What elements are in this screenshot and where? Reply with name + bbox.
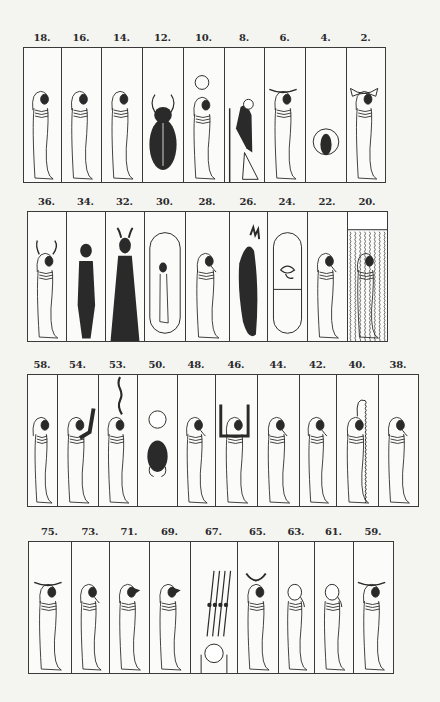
- scarab-with-disk-icon: [138, 375, 177, 506]
- mummy-serpent-above-icon: [99, 375, 137, 506]
- panel-number-label: 18.: [34, 32, 51, 43]
- panel-number-label: 30.: [156, 196, 173, 207]
- figure-panel: [98, 374, 137, 507]
- figure-panel: [190, 541, 237, 674]
- panel-number-label: 40.: [349, 359, 366, 370]
- figure-panel: [307, 211, 347, 342]
- panel-number-label: 10.: [195, 32, 212, 43]
- panel-number-label: 8.: [239, 32, 249, 43]
- panel-number-label: 54.: [69, 359, 86, 370]
- figure-panel: [57, 374, 98, 507]
- panel-number-label: 69.: [161, 526, 178, 537]
- disk-with-plumes-icon: [191, 542, 237, 673]
- panel-number-label: 14.: [113, 32, 130, 43]
- figure-panel: [101, 47, 142, 183]
- figure-panel: [27, 374, 57, 507]
- panel-number-label: 59.: [365, 526, 382, 537]
- illustration-plate: 18.16.14.12.10.8.6.4.2.36.34.32.30.28.26…: [0, 0, 440, 702]
- eye-in-cartouche-icon: [268, 212, 307, 341]
- figure-panel: [185, 211, 229, 342]
- figure-panel: [237, 541, 278, 674]
- panel-number-label: 20.: [359, 196, 376, 207]
- standing-dark-robed-horned-icon: [106, 212, 144, 341]
- mummy-beard-icon: [379, 375, 418, 506]
- figure-panel: [105, 211, 144, 342]
- kneeling-dark-figure-icon: [225, 48, 264, 182]
- panel-number-label: 36.: [38, 196, 55, 207]
- mummy-crescent-icon: [238, 542, 278, 673]
- mummy-jackal-icon: [150, 542, 190, 673]
- mummy-serpent-wavy-icon: [337, 375, 378, 506]
- mummy-human-icon: [62, 48, 101, 182]
- mummy-human-icon: [24, 48, 61, 182]
- figure-panel: [347, 211, 388, 342]
- panel-number-label: 67.: [205, 526, 222, 537]
- mummy-winged-icon: [347, 48, 385, 182]
- panel-number-label: 50.: [149, 359, 166, 370]
- panel-number-label: 12.: [154, 32, 171, 43]
- figure-panel: [183, 47, 224, 183]
- figure-panel: [378, 374, 419, 507]
- figure-panel: [109, 541, 149, 674]
- figure-panel: [257, 374, 299, 507]
- mummy-beard-icon: [308, 212, 347, 341]
- panel-number-label: 42.: [309, 359, 326, 370]
- figure-panel: [23, 47, 61, 183]
- figure-panel: [177, 374, 215, 507]
- panel-number-label: 32.: [116, 196, 133, 207]
- mummy-ram-horns-icon: [265, 48, 305, 182]
- mummy-long-horns-icon: [28, 212, 66, 341]
- panel-number-label: 73.: [82, 526, 99, 537]
- panel-number-label: 4.: [320, 32, 330, 43]
- mummy-human-icon: [102, 48, 142, 182]
- dark-animal-upright-icon: [230, 212, 267, 341]
- figure-panel: [353, 541, 394, 674]
- figure-panel: [215, 374, 257, 507]
- small-mummy-in-cartouche-icon: [145, 212, 185, 341]
- figure-panel: [142, 47, 183, 183]
- figure-panel: [61, 47, 101, 183]
- panel-number-label: 71.: [121, 526, 138, 537]
- figure-panel: [229, 211, 267, 342]
- mummy-raised-arm-icon: [58, 375, 98, 506]
- mummy-sun-disk-icon: [184, 48, 224, 182]
- panel-number-label: 38.: [390, 359, 407, 370]
- figure-panel: [346, 47, 386, 183]
- panel-number-label: 26.: [240, 196, 257, 207]
- panel-number-label: 6.: [279, 32, 289, 43]
- figure-panel: [224, 47, 264, 183]
- figure-panel: [71, 541, 109, 674]
- mummy-ram-horns-icon: [354, 542, 393, 673]
- panel-number-label: 16.: [73, 32, 90, 43]
- mummy-beard-icon: [258, 375, 299, 506]
- panel-number-label: 53.: [109, 359, 126, 370]
- figure-panel: [264, 47, 305, 183]
- mummy-jackal-icon: [110, 542, 149, 673]
- panel-number-label: 65.: [249, 526, 266, 537]
- mummy-beard-icon: [72, 542, 109, 673]
- mummy-in-water-icon: [348, 212, 387, 341]
- mummy-bald-icon: [315, 542, 353, 673]
- figure-panel: [66, 211, 105, 342]
- figure-panel: [278, 541, 314, 674]
- panel-number-label: 48.: [188, 359, 205, 370]
- panel-number-label: 58.: [34, 359, 51, 370]
- mummy-ram-horns-icon: [29, 542, 71, 673]
- panel-number-label: 24.: [279, 196, 296, 207]
- panel-number-label: 22.: [319, 196, 336, 207]
- figure-panel: [149, 541, 190, 674]
- figure-panel: [336, 374, 378, 507]
- figure-panel: [299, 374, 336, 507]
- standing-dark-figure-icon: [67, 212, 105, 341]
- figure-panel: [27, 211, 66, 342]
- panel-number-label: 75.: [41, 526, 58, 537]
- mummy-beard-icon: [178, 375, 215, 506]
- mummy-beard-icon: [300, 375, 336, 506]
- figure-panel: [28, 541, 71, 674]
- figure-panel: [314, 541, 353, 674]
- panel-number-label: 28.: [199, 196, 216, 207]
- panel-number-label: 63.: [288, 526, 305, 537]
- panel-number-label: 44.: [270, 359, 287, 370]
- mummy-hawk-icon: [28, 375, 57, 506]
- figure-panel: [267, 211, 307, 342]
